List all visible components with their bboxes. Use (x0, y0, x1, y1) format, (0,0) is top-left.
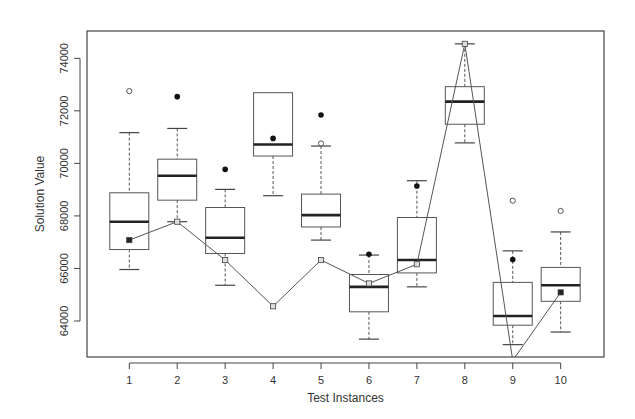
outlier-filled-marker (318, 112, 324, 118)
iqr-box (349, 275, 388, 312)
series-point-marker (223, 257, 228, 262)
x-axis-label: Test Instances (307, 391, 384, 405)
outlier-filled-marker (174, 94, 180, 100)
x-tick-label: 7 (414, 374, 420, 386)
x-tick-label: 10 (555, 374, 567, 386)
y-tick-label: 64000 (58, 306, 70, 337)
series-point-marker (558, 290, 563, 295)
iqr-box (493, 282, 532, 325)
x-tick-label: 8 (462, 374, 468, 386)
iqr-box (302, 194, 341, 227)
box-5 (302, 112, 341, 240)
iqr-box (206, 208, 245, 254)
outlier-filled-marker (222, 167, 228, 173)
y-tick-label: 70000 (58, 148, 70, 179)
box-6 (349, 251, 388, 339)
x-tick-label: 4 (270, 374, 276, 386)
y-tick-label: 74000 (58, 43, 70, 74)
series-point-marker (510, 358, 515, 363)
series-point-marker (175, 219, 180, 224)
x-axis: 12345678910 (126, 363, 567, 386)
iqr-box (158, 159, 197, 200)
series-point-marker (270, 304, 275, 309)
x-tick-label: 5 (318, 374, 324, 386)
series-point-marker (318, 257, 323, 262)
outlier-filled-marker (414, 183, 420, 189)
outlier-open-marker (558, 208, 563, 213)
box-3 (206, 167, 245, 286)
outlier-filled-marker (366, 251, 372, 257)
box-4 (254, 93, 293, 196)
x-tick-label: 2 (174, 374, 180, 386)
box-7 (397, 181, 436, 287)
outlier-filled-marker (510, 257, 516, 263)
y-tick-label: 68000 (58, 201, 70, 232)
series-point-marker (462, 41, 467, 46)
outlier-filled-marker (270, 136, 276, 142)
box-10 (541, 208, 580, 332)
y-tick-label: 66000 (58, 253, 70, 284)
y-tick-label: 72000 (58, 96, 70, 127)
outlier-open-marker (510, 198, 515, 203)
outlier-open-marker (127, 89, 132, 94)
y-axis: 640006600068000700007200074000 (58, 43, 80, 336)
x-tick-label: 1 (126, 374, 132, 386)
series-point-marker (127, 237, 132, 242)
x-tick-label: 6 (366, 374, 372, 386)
outlier-open-marker (318, 141, 323, 146)
series-point-marker (414, 262, 419, 267)
y-axis-label: Solution Value (33, 155, 47, 232)
box-plot-chart: 640006600068000700007200074000 123456789… (0, 0, 635, 419)
x-tick-label: 3 (222, 374, 228, 386)
x-tick-label: 9 (510, 374, 516, 386)
series-point-marker (366, 281, 371, 286)
iqr-box (254, 93, 293, 156)
box-2 (158, 94, 197, 222)
box-series (110, 44, 580, 345)
box-8 (445, 44, 484, 143)
